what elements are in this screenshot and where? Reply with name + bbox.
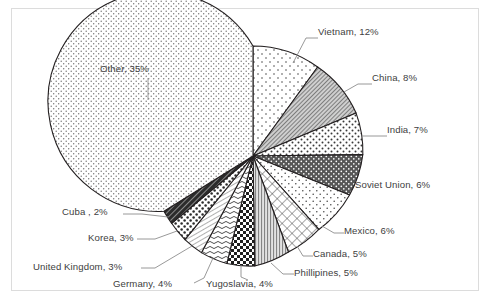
pie-label-soviet-union: Soviet Union, 6% xyxy=(355,180,430,190)
leader-line-mexico xyxy=(322,226,344,233)
leader-line-cuba xyxy=(123,214,168,217)
leader-line-canada xyxy=(297,246,313,256)
pie-label-mexico: Mexico, 6% xyxy=(344,226,395,236)
pie-label-vietnam: Vietnam, 12% xyxy=(318,27,379,37)
pie-label-other: Other, 35% xyxy=(100,64,149,74)
pie-label-cuba: Cuba , 2% xyxy=(62,207,108,217)
leader-line-china xyxy=(344,84,372,92)
pie-chart-canvas xyxy=(0,0,493,303)
leader-line-united-kingdom xyxy=(141,246,192,268)
pie-label-germany: Germany, 4% xyxy=(113,279,172,289)
leader-line-phillipines xyxy=(271,263,294,274)
pie-chart-figure: Vietnam, 12% China, 8% India, 7% Soviet … xyxy=(0,0,493,303)
pie-label-china: China, 8% xyxy=(372,73,417,83)
pie-label-yugoslavia: Yugoslavia, 4% xyxy=(206,279,273,289)
pie-label-phillipines: Phillipines, 5% xyxy=(294,268,358,278)
pie-label-india: India, 7% xyxy=(387,125,428,135)
pie-label-korea: Korea, 3% xyxy=(88,233,134,243)
pie-slices-group xyxy=(48,0,363,266)
pie-label-united-kingdom: United Kingdom, 3% xyxy=(33,262,122,272)
pie-label-canada: Canada, 5% xyxy=(313,249,367,259)
leader-line-korea xyxy=(137,231,177,239)
